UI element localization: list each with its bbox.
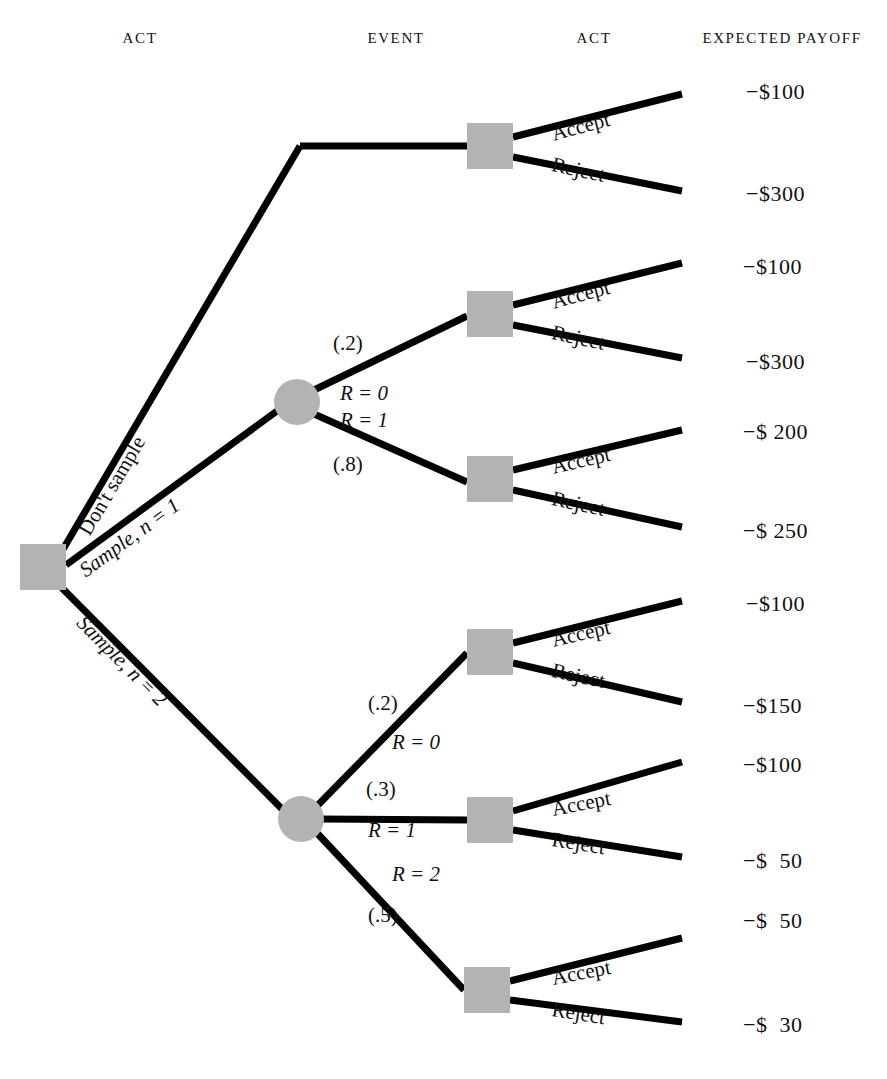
node-root-decision[interactable] <box>20 544 66 590</box>
node-act-n1-r0[interactable] <box>467 291 513 337</box>
node-chance-n1[interactable] <box>274 379 320 425</box>
payoff-value: −$ 50 <box>743 848 802 874</box>
event-label-n2-r0: R = 0 <box>392 730 440 755</box>
column-header-act-1: ACT <box>123 30 158 47</box>
column-header-expected-payoff: EXPECTED PAYOFF <box>702 30 861 47</box>
node-act-n2-r1[interactable] <box>467 797 513 843</box>
prob-label-n2-r1: (.3) <box>366 777 396 802</box>
prob-label-n2-r0: (.2) <box>368 691 398 716</box>
column-header-event: EVENT <box>367 30 424 47</box>
prob-label-n2-r2: (.5) <box>368 903 398 928</box>
payoff-value: −$ 50 <box>743 908 802 934</box>
decision-tree-diagram: ACT EVENT ACT EXPECTED PAYOFF Don't samp… <box>0 0 887 1079</box>
payoff-value: −$ 250 <box>743 518 808 544</box>
node-act-nosample[interactable] <box>467 123 513 169</box>
node-act-n2-r0[interactable] <box>467 629 513 675</box>
payoff-value: −$100 <box>743 254 802 280</box>
payoff-value: −$ 200 <box>743 419 808 445</box>
payoff-value: −$ 30 <box>743 1012 802 1038</box>
branch-lines <box>62 94 682 1022</box>
event-label-n1-r0: R = 0 <box>340 381 388 406</box>
node-act-n1-r1[interactable] <box>467 456 513 502</box>
payoff-value: −$300 <box>746 349 805 375</box>
payoff-value: −$100 <box>743 752 802 778</box>
event-label-n2-r2: R = 2 <box>392 862 440 887</box>
prob-label-n1-r1: (.8) <box>333 452 363 477</box>
payoff-value: −$100 <box>746 591 805 617</box>
payoff-value: −$150 <box>743 693 802 719</box>
event-label-n1-r1: R = 1 <box>340 408 388 433</box>
node-chance-n2[interactable] <box>278 796 324 842</box>
column-header-act-2: ACT <box>577 30 612 47</box>
event-label-n2-r1: R = 1 <box>368 818 416 843</box>
payoff-value: −$100 <box>746 79 805 105</box>
payoff-value: −$300 <box>746 181 805 207</box>
prob-label-n1-r0: (.2) <box>333 331 363 356</box>
node-act-n2-r2[interactable] <box>464 967 510 1013</box>
